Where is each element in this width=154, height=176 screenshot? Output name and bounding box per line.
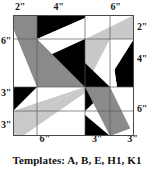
left-label-3: 3" (1, 119, 11, 130)
quilt-block-figure: 2" 4" 6" 6" 3" 3" 2" 4" 6" 6" 3" 3" (0, 0, 154, 176)
right-label-2: 4" (137, 53, 147, 64)
right-measurement-rail: 2" 4" 6" (136, 0, 150, 140)
top-label-3: 6" (110, 1, 120, 12)
quilt-block (13, 15, 134, 136)
left-label-2: 3" (1, 87, 11, 98)
quilt-block-svg (13, 15, 134, 136)
right-label-3: 6" (137, 103, 147, 114)
top-measurement-rail: 2" 4" 6" (0, 0, 154, 14)
left-measurement-rail: 6" 3" 3" (0, 0, 14, 140)
templates-caption: Templates: A, B, E, H1, K1 (0, 153, 154, 167)
top-label-1: 2" (15, 1, 25, 12)
top-label-2: 4" (53, 1, 63, 12)
right-label-1: 2" (137, 21, 147, 32)
left-label-1: 6" (1, 35, 11, 46)
